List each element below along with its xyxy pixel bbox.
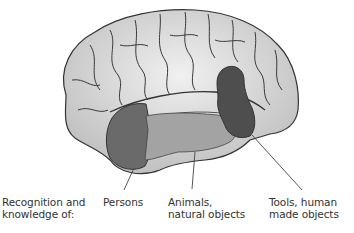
label-animals-line1: Animals, (168, 196, 245, 208)
label-animals-line2: natural objects (168, 208, 245, 220)
label-persons: Persons (103, 196, 143, 208)
label-tools-line1: Tools, human (269, 196, 339, 208)
label-heading-line2: knowledge of: (2, 208, 85, 220)
label-tools-line2: made objects (269, 208, 339, 220)
label-persons-line1: Persons (103, 196, 143, 208)
label-heading-line1: Recognition and (2, 196, 85, 208)
label-animals: Animals, natural objects (168, 196, 245, 220)
label-heading: Recognition and knowledge of: (2, 196, 85, 220)
label-tools: Tools, human made objects (269, 196, 339, 220)
leader-line-tools (252, 135, 302, 190)
